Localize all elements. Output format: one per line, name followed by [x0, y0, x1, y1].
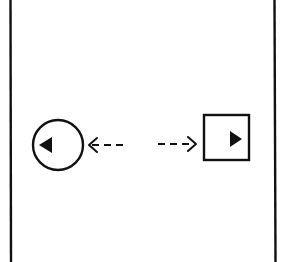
right-dashed-arrow — [158, 137, 196, 151]
right-node — [204, 115, 249, 160]
triangle-left-icon — [39, 137, 52, 153]
left-node — [33, 120, 83, 170]
triangle-right-icon — [230, 131, 242, 147]
left-dashed-arrow — [89, 138, 127, 152]
frame-right-line — [275, 0, 276, 262]
diagram-svg — [0, 0, 291, 262]
square-shape — [204, 115, 249, 160]
arrow-head-right-icon — [188, 137, 196, 151]
frame-left-line — [11, 0, 12, 262]
diagram-canvas — [0, 0, 291, 262]
